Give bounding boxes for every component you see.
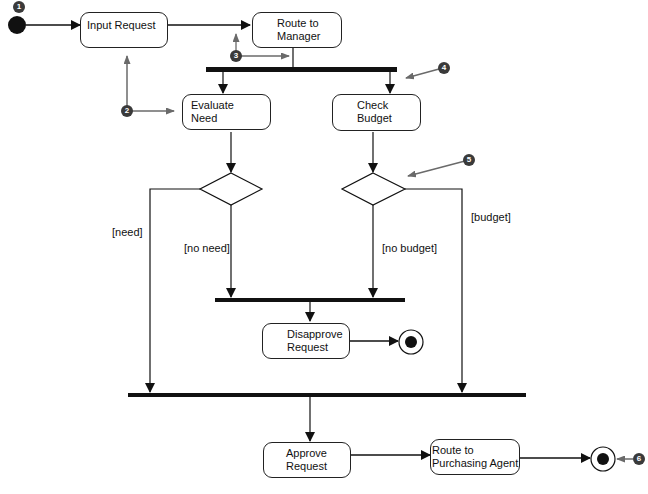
fork-bar [206, 67, 397, 72]
callout-1: 1 [13, 1, 25, 13]
guard-no-budget: [no budget] [382, 242, 437, 254]
decision-budget [342, 173, 405, 205]
final-node-approve [591, 447, 615, 471]
callout-2: 2 [121, 105, 133, 117]
diagram-canvas [0, 0, 648, 494]
activity-disapprove-request: Disapprove Request [262, 323, 350, 359]
activity-check-budget: Check Budget [332, 94, 421, 131]
activity-label: Check Budget [357, 99, 392, 125]
guard-budget: [budget] [471, 211, 511, 223]
callout-5: 5 [463, 154, 475, 166]
guard-need: [need] [112, 226, 143, 238]
activity-label: Approve Request [286, 447, 327, 473]
activity-route-to-purchasing-agent: Route to Purchasing Agent [430, 439, 520, 475]
activity-approve-request: Approve Request [263, 442, 351, 478]
activity-evaluate-need: Evaluate Need [182, 94, 271, 130]
activity-label: Input Request [87, 19, 156, 32]
activity-label: Disapprove Request [287, 328, 343, 354]
final-node-disapprove [399, 330, 423, 354]
decision-need [200, 173, 262, 205]
activity-label: Route to Purchasing Agent [432, 444, 518, 470]
callout-6: 6 [633, 453, 645, 465]
activity-route-to-manager: Route to Manager [252, 12, 342, 48]
activity-input-request: Input Request [80, 12, 168, 48]
callout-4: 4 [438, 62, 450, 74]
activity-label: Route to Manager [277, 17, 320, 43]
join-bar-disapprove [215, 298, 405, 302]
initial-node [8, 16, 26, 34]
activity-label: Evaluate Need [191, 99, 234, 125]
callout-3: 3 [230, 50, 242, 62]
join-bar-approve [128, 393, 526, 397]
guard-no-need: [no need] [184, 242, 230, 254]
